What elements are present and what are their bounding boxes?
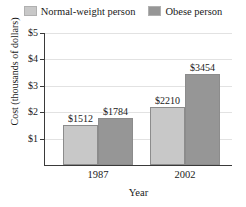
bar-value-1987-normal-weight: $1512: [68, 113, 93, 124]
gridline-4: [45, 59, 232, 60]
plot-area: $1512 $1784 $2210 $3454: [45, 33, 232, 165]
legend-swatch-obese: [148, 6, 161, 16]
y-tick-mark-2: [40, 112, 45, 113]
legend-swatch-normal-weight: [24, 6, 37, 16]
legend-label-normal-weight: Normal-weight person: [41, 6, 136, 17]
legend-label-obese: Obese person: [165, 6, 222, 17]
y-tick-label-3: $3: [28, 80, 38, 91]
x-tick-label-2002: 2002: [150, 169, 220, 180]
bar-value-1987-obese: $1784: [103, 106, 128, 117]
y-tick-mark-5: [40, 33, 45, 34]
y-tick-label-4: $4: [28, 53, 38, 64]
y-tick-label-5: $5: [28, 27, 38, 38]
bar-value-2002-obese: $3454: [190, 62, 215, 73]
x-axis-title: Year: [45, 187, 232, 198]
y-tick-label-1: $1: [28, 133, 38, 144]
x-axis-baseline: [45, 165, 232, 166]
y-tick-label-2: $2: [28, 106, 38, 117]
y-axis-title: Cost (thousands of dollars): [9, 2, 20, 142]
chart-legend: Normal-weight person Obese person: [0, 2, 246, 20]
bar-1987-obese: $1784: [98, 118, 133, 165]
bar-2002-obese: $3454: [185, 74, 220, 165]
gridline-5: [45, 33, 232, 34]
bar-1987-normal-weight: $1512: [63, 125, 98, 165]
bar-2002-normal-weight: $2210: [150, 107, 185, 165]
legend-entry-normal-weight: Normal-weight person: [24, 6, 136, 17]
y-tick-mark-4: [40, 59, 45, 60]
bar-value-2002-normal-weight: $2210: [155, 95, 180, 106]
legend-entry-obese: Obese person: [148, 6, 222, 17]
bar-chart-figure: Normal-weight person Obese person Cost (…: [0, 0, 246, 207]
y-tick-mark-3: [40, 86, 45, 87]
y-tick-mark-1: [40, 139, 45, 140]
x-tick-label-1987: 1987: [63, 169, 133, 180]
